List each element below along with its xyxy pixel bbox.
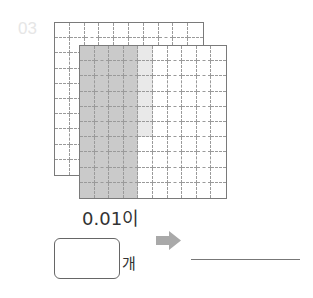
unit-label: 개 [122, 252, 136, 273]
answer-line[interactable] [191, 259, 300, 260]
grid-cell [124, 122, 139, 137]
problem-number: 03 [18, 19, 37, 39]
grid-cell [55, 38, 70, 53]
grid-cell [197, 152, 212, 167]
grid-cell [197, 137, 212, 152]
grid-cell [55, 53, 70, 68]
grid-cell [182, 76, 197, 91]
grid-cell [124, 183, 139, 198]
grid-cell [138, 107, 153, 122]
grid-cell [109, 152, 124, 167]
grid-cell [197, 92, 212, 107]
grid-cell [95, 46, 110, 61]
grid-cell [55, 99, 70, 114]
grid-cell [182, 168, 197, 183]
grid-cell [182, 92, 197, 107]
grid-cell [153, 168, 168, 183]
grid-cell [168, 152, 183, 167]
grid-cell [168, 107, 183, 122]
grid-cell [211, 152, 226, 167]
grid-cell [182, 152, 197, 167]
grid-cell [95, 152, 110, 167]
grid-cell [168, 168, 183, 183]
grid-cell [80, 183, 95, 198]
grid-cell [211, 183, 226, 198]
grid-cell [138, 76, 153, 91]
grid-cell [80, 61, 95, 76]
grid-cell [55, 69, 70, 84]
grid-cell [211, 122, 226, 137]
grid-cell [159, 23, 174, 38]
grid-cell [55, 129, 70, 144]
grid-cell [182, 183, 197, 198]
grid-cell [109, 168, 124, 183]
grid-cell [109, 122, 124, 137]
grid-cell [109, 92, 124, 107]
grid-cell [182, 137, 197, 152]
grid-cell [138, 183, 153, 198]
grid-cell [124, 107, 139, 122]
grid-cell [211, 137, 226, 152]
grid-cell [173, 23, 188, 38]
grid-cell [168, 61, 183, 76]
decimal-label: 0.01이 [82, 204, 139, 230]
grid-cell [124, 46, 139, 61]
grid-cell [211, 168, 226, 183]
grid-cell [182, 61, 197, 76]
grid-cell [85, 23, 100, 38]
grid-cell [109, 183, 124, 198]
grid-cell [95, 168, 110, 183]
grid-cell [168, 76, 183, 91]
grid-cell [55, 23, 70, 38]
grid-cell [138, 168, 153, 183]
grid-cell [124, 92, 139, 107]
grid-cell [197, 46, 212, 61]
grid-cell [138, 61, 153, 76]
grid-cell [168, 122, 183, 137]
grid-cell [168, 46, 183, 61]
grid-cell [55, 145, 70, 160]
grid-cell [197, 168, 212, 183]
grid-cell [124, 76, 139, 91]
grid-cell [211, 107, 226, 122]
grid-cell [197, 76, 212, 91]
grid-cell [99, 23, 114, 38]
grid-cell [80, 137, 95, 152]
grid-cell [211, 92, 226, 107]
grid-cell [211, 46, 226, 61]
grid-cell [70, 23, 85, 38]
grid-cell [80, 46, 95, 61]
grid-cell [55, 84, 70, 99]
grid-cell [80, 76, 95, 91]
grid-cell [124, 168, 139, 183]
grid-cell [138, 137, 153, 152]
grid-cell [80, 152, 95, 167]
grid-cell [211, 76, 226, 91]
grid-cell [197, 61, 212, 76]
grid-cell [95, 137, 110, 152]
grid-cell [197, 122, 212, 137]
grid-cell [197, 107, 212, 122]
front-grid [79, 45, 227, 199]
grid-cell [168, 92, 183, 107]
grid-cell [124, 152, 139, 167]
grid-cell [144, 23, 159, 38]
grid-cell [153, 92, 168, 107]
right-arrow-icon [156, 231, 181, 250]
grid-cell [153, 137, 168, 152]
grid-cell [80, 168, 95, 183]
grid-cell [124, 61, 139, 76]
grid-cell [153, 46, 168, 61]
grid-cell [138, 92, 153, 107]
answer-box[interactable] [54, 238, 120, 279]
grid-cell [80, 107, 95, 122]
grid-cell [138, 152, 153, 167]
grid-cell [109, 107, 124, 122]
grid-cell [138, 46, 153, 61]
grid-cell [55, 114, 70, 129]
grid-cell [182, 122, 197, 137]
grid-cell [153, 122, 168, 137]
grid-cell [182, 107, 197, 122]
grid-cell [109, 46, 124, 61]
grid-cell [129, 23, 144, 38]
